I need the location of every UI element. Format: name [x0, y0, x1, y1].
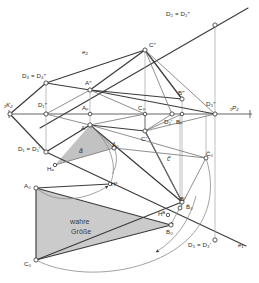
label-c-p: Cₚ	[138, 104, 146, 111]
label-d3-double-prime: D₃″	[206, 100, 215, 107]
k-to-d4	[10, 83, 46, 114]
label-d4-double: D₄ = D₄″	[22, 72, 46, 79]
node-C0	[34, 258, 38, 262]
ray-cdd-d3s	[145, 50, 215, 114]
label-b-bar-zero: B̄₀	[186, 203, 193, 210]
small-shaded-triangle-fill	[55, 125, 114, 165]
geometry-figure: ₁K₂ ₁P₂ e₂ e₁ D₂ = D₂″ D₄ = D₄″ D₁″ D₁ =…	[0, 0, 259, 283]
node-D3s	[213, 112, 217, 116]
node-A0	[34, 186, 38, 190]
front-view-triangle-outline	[90, 50, 182, 99]
node-Apr	[88, 123, 92, 127]
label-c-prime: C′	[141, 135, 147, 142]
ray-a0-hc	[36, 184, 110, 188]
node-Cdd	[143, 48, 147, 52]
label-h-b: Hᴮ	[158, 210, 165, 217]
node-Bp	[180, 112, 184, 116]
node-D2p	[170, 112, 174, 116]
node-D3	[213, 238, 217, 242]
label-a-zero: A₀	[24, 182, 31, 189]
node-D1	[44, 150, 48, 154]
node-K	[8, 112, 12, 116]
label-h-a: Hₐ	[47, 165, 54, 172]
top-view-triangle-outline	[90, 125, 182, 202]
label-a-bar-zero: Ā₀	[112, 141, 119, 148]
label-b-double-prime: B″	[178, 89, 185, 96]
label-a-double-prime: A″	[85, 79, 92, 86]
label-axis-left: ₁K₂	[4, 101, 13, 108]
label-d3-pair: D₃ = D₃′	[188, 241, 211, 248]
label-h-c: Hᶜ	[111, 180, 118, 187]
label-b-zero: B₀	[166, 228, 173, 235]
top-view-triangle	[90, 125, 182, 202]
label-c-bar-zero: C̄₀	[206, 150, 213, 157]
true-size-triangle-fill	[36, 188, 171, 260]
node-D1s	[44, 112, 48, 116]
ray-add-cp	[90, 90, 145, 114]
node-Add	[88, 88, 92, 92]
label-b-prime: B′	[180, 195, 186, 202]
construction-canvas	[0, 0, 259, 283]
label-a-bar: ā	[79, 147, 83, 154]
true-size-caption-line2: Größe	[71, 228, 91, 235]
label-a-p: Aₚ	[82, 104, 89, 111]
label-b-p: Bₚ	[176, 118, 183, 125]
node-Bb0	[178, 206, 182, 210]
label-e1: e₁	[238, 241, 244, 248]
true-size-caption-line1: wahre	[70, 218, 90, 225]
d4-to-cdd	[46, 50, 145, 83]
node-Ap	[88, 112, 92, 116]
d4-to-add	[46, 83, 90, 90]
arc-B-rabattement	[171, 208, 180, 225]
front-view-triangle	[90, 50, 182, 99]
add-to-bdd-chord	[90, 90, 215, 114]
label-d1-double: D₁ = D₁′	[18, 145, 40, 152]
node-HB	[166, 213, 169, 216]
label-c-zero: C₀	[24, 260, 31, 267]
label-d2-prime: D₂′	[164, 118, 172, 125]
node-B0	[169, 223, 173, 227]
ray-apr-cp	[90, 114, 145, 125]
label-axis-right: ₁P₂	[230, 104, 239, 111]
label-c-double-prime: C″	[149, 41, 156, 48]
label-d2-double: D₂ = D₂″	[166, 10, 190, 17]
node-D2	[213, 23, 217, 27]
label-d1-single: D₁″	[38, 101, 47, 108]
label-e2: e₂	[82, 48, 88, 55]
node-Cpr	[143, 129, 147, 133]
ray-cpr-bpr	[145, 131, 182, 202]
node-Cp	[143, 112, 147, 116]
node-D4	[44, 81, 48, 85]
label-c-bar: c̄	[167, 155, 171, 162]
node-Bdd	[180, 97, 184, 101]
label-a-prime: A′	[81, 124, 87, 131]
